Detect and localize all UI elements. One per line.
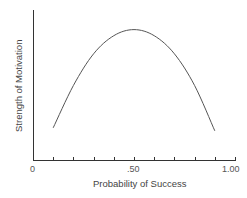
- x-tick-label-50: .50: [127, 164, 140, 174]
- x-tick-label-0: 0: [30, 164, 35, 174]
- y-axis-title: Strength of Motivation: [13, 40, 24, 132]
- motivation-curve: [53, 30, 215, 131]
- chart-canvas: [0, 0, 247, 198]
- x-axis-title: Probability of Success: [93, 178, 186, 189]
- x-tick-label-100: 1.00: [222, 164, 240, 174]
